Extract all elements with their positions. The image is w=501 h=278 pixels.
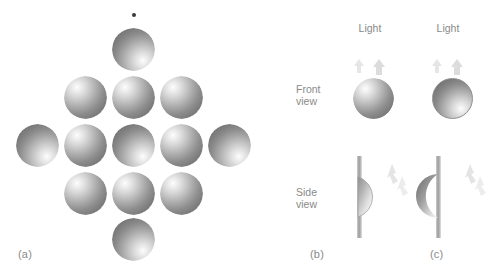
row-label-front-view: Front view	[296, 83, 321, 107]
sphere-dimple	[16, 124, 59, 167]
row-label-side-line2: view	[296, 198, 317, 210]
front-view-dimple-c	[432, 78, 473, 119]
sphere-bump	[64, 172, 107, 215]
sphere-bump	[160, 124, 203, 167]
front-view-bump-b	[353, 78, 394, 119]
sphere-dimple	[112, 218, 155, 261]
light-arrow-down-icon	[352, 58, 396, 76]
light-arrow-down-icon	[430, 58, 474, 76]
light-heading-c: Light	[418, 22, 478, 34]
sphere-bump	[160, 172, 203, 215]
sphere-dimple	[112, 28, 155, 71]
panel-label-a: (a)	[18, 248, 32, 260]
fixation-dot	[132, 13, 136, 17]
panel-label-c: (c)	[430, 248, 443, 260]
sphere-bump	[64, 124, 107, 167]
figure-canvas: (a) Front view Side view Light	[0, 0, 501, 278]
sphere-bump	[112, 76, 155, 119]
panel-label-b: (b)	[310, 248, 324, 260]
row-label-front-line2: view	[296, 95, 321, 107]
sphere-bump	[64, 76, 107, 119]
light-arrow-diagonal-icon-c	[456, 162, 490, 198]
sphere-dimple	[112, 124, 155, 167]
light-arrow-diagonal-icon-b	[378, 162, 412, 198]
sphere-bump	[160, 76, 203, 119]
sphere-bump	[112, 172, 155, 215]
row-label-side-view: Side view	[296, 186, 317, 210]
row-label-side-line1: Side	[296, 186, 317, 198]
row-label-front-line1: Front	[296, 83, 321, 95]
light-heading-b: Light	[340, 22, 400, 34]
concave-hemisphere-c	[414, 172, 460, 222]
sphere-dimple	[208, 124, 251, 167]
